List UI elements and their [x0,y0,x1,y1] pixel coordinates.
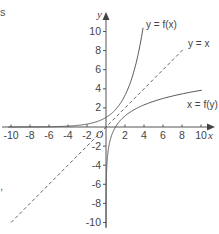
x-tick-label: -6 [44,129,53,141]
x-tick-label: 8 [179,129,185,141]
graph-of-function-and-inverse: s , x y -10-8-6-4-2246810 108642-2-4-6-8… [0,0,219,234]
y-tick-label: -2 [92,140,101,152]
y-tick-label: -4 [92,159,101,171]
x-tick-label: -4 [63,129,72,141]
y-tick-label: 10 [89,25,101,37]
curve-y-equals-f-x [8,28,143,127]
label-y-equals-x: y = x [188,38,209,49]
x-tick-label: 2 [122,129,128,141]
curve-x-equals-f-y [106,90,202,227]
y-tick-label: 2 [95,101,101,113]
y-tick-label: 4 [95,82,101,94]
x-axis-label: x [207,129,213,141]
y-tick-label: -6 [92,178,101,190]
x-axis-tick-labels: -10-8-6-4-2246810 [3,129,207,141]
clipped-text-fragment-top: s [0,6,6,18]
x-tick-label: -8 [25,129,34,141]
y-axis-label: y [96,8,102,20]
label-y-equals-f-x: y = f(x) [146,19,177,30]
label-x-equals-f-y: x = f(y) [187,99,218,110]
x-tick-label: -2 [82,129,91,141]
y-tick-label: -10 [86,216,101,228]
y-tick-label: 8 [95,44,101,56]
x-tick-label: 6 [160,129,166,141]
y-tick-label: 6 [95,63,101,75]
x-tick-label: -10 [3,129,18,141]
x-tick-label: 10 [195,129,207,141]
y-axis-arrow-icon [103,12,110,20]
x-tick-label: 4 [141,129,147,141]
clipped-text-fragment-bottom: , [0,180,3,192]
y-tick-label: -8 [92,197,101,209]
